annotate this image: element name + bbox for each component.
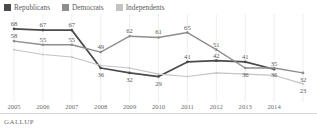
legend-label-independents: Independents xyxy=(126,4,165,11)
data-point xyxy=(157,75,160,78)
axis-baseline xyxy=(0,113,317,114)
data-point xyxy=(186,31,189,34)
value-label: 55 xyxy=(34,36,52,43)
data-point xyxy=(71,56,73,58)
data-point xyxy=(42,29,45,32)
data-point xyxy=(71,29,74,32)
value-label: 67 xyxy=(63,21,81,28)
gallup-line-chart: Republicans Democrats Independents 68676… xyxy=(0,0,317,134)
data-point xyxy=(186,61,189,64)
data-point xyxy=(99,51,102,54)
value-label: 36 xyxy=(236,71,254,78)
data-point xyxy=(13,49,15,51)
legend-label-republicans: Republicans xyxy=(14,4,50,11)
value-label: 49 xyxy=(92,43,110,50)
square-swatch-icon xyxy=(116,4,123,11)
data-point xyxy=(215,48,218,51)
value-label: 36 xyxy=(92,71,110,78)
value-label: 41 xyxy=(236,53,254,60)
data-point xyxy=(128,72,131,75)
data-point xyxy=(157,36,160,39)
square-swatch-icon xyxy=(4,4,11,11)
value-label: 61 xyxy=(150,28,168,35)
data-point xyxy=(99,67,102,70)
square-swatch-icon xyxy=(62,4,69,11)
data-point xyxy=(244,67,247,70)
legend-label-democrats: Democrats xyxy=(72,4,104,11)
x-axis-tick-2012: 2012 xyxy=(201,102,231,111)
x-axis-tick-2005: 2005 xyxy=(0,102,29,111)
value-label: 32 xyxy=(121,76,139,83)
data-point xyxy=(244,61,247,64)
data-point xyxy=(215,72,217,74)
value-label: 62 xyxy=(121,27,139,34)
legend-item-democrats: Democrats xyxy=(62,4,104,11)
value-label: 67 xyxy=(34,21,52,28)
value-label: 29 xyxy=(150,80,168,87)
data-point xyxy=(71,43,74,46)
value-label: 41 xyxy=(178,53,196,60)
data-point xyxy=(302,83,304,85)
x-axis-tick-2013: 2013 xyxy=(230,102,260,111)
data-point xyxy=(13,28,16,31)
value-label: 55 xyxy=(63,36,81,43)
data-point xyxy=(13,40,16,43)
legend-item-independents: Independents xyxy=(116,4,165,11)
legend-item-republicans: Republicans xyxy=(4,4,50,11)
data-point xyxy=(128,35,131,38)
x-axis-tick-2010: 2010 xyxy=(144,102,174,111)
value-label: 42 xyxy=(207,52,225,59)
x-axis-tick-2011: 2011 xyxy=(172,102,202,111)
x-axis-tick-2006: 2006 xyxy=(28,102,58,111)
data-point xyxy=(129,67,131,69)
source-attribution: GALLUP xyxy=(4,118,34,126)
series-line-republicans xyxy=(14,29,274,77)
value-label: 35 xyxy=(265,60,283,67)
plot-area: 6867673632294142413558555549626165513636… xyxy=(0,14,317,102)
data-point xyxy=(158,73,160,75)
x-axis-tick-2008: 2008 xyxy=(86,102,116,111)
value-label: 36 xyxy=(265,71,283,78)
data-point xyxy=(215,59,218,62)
x-axis-tick-2009: 2009 xyxy=(115,102,145,111)
value-label: 58 xyxy=(5,32,23,39)
chart-legend: Republicans Democrats Independents xyxy=(4,2,177,13)
value-label: 68 xyxy=(5,20,23,27)
x-axis-tick-2014: 2014 xyxy=(259,102,289,111)
data-point xyxy=(302,72,305,75)
value-label: 32 xyxy=(294,76,312,83)
data-point xyxy=(100,65,102,67)
x-axis-tick-2007: 2007 xyxy=(57,102,87,111)
data-point xyxy=(187,76,189,78)
value-label: 23 xyxy=(294,87,312,94)
data-point xyxy=(42,54,44,56)
value-label: 51 xyxy=(207,41,225,48)
data-point xyxy=(42,43,45,46)
value-label: 65 xyxy=(178,24,196,31)
